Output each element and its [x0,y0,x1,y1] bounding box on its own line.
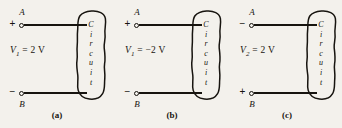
circuit-letter: i [189,30,223,40]
circuit-letter: c [74,49,108,59]
voltage-subscript: 1 [131,50,135,58]
circuit-panel-a: + A − B V1 = 2 V C i r c u i [0,0,114,128]
voltage-equals: = [22,45,28,55]
voltage-label: V2 = 2 V [240,45,275,58]
circuit-panel-c: − A + B V2 = 2 V C i r c u i [230,0,342,128]
top-terminal-label: A [245,7,259,17]
bottom-terminal-label: B [245,99,259,109]
circuit-letter: u [74,58,108,68]
circuit-figure: + A − B V1 = 2 V C i r c u i [0,0,342,128]
panel-caption: (b) [115,110,229,120]
bottom-terminal-polarity-sign: + [238,86,247,98]
circuit-block-label: C i r c u i t [74,20,108,87]
circuit-letter: t [74,78,108,88]
voltage-unit: V [159,45,166,55]
circuit-letter: C [74,20,108,30]
voltage-value: 2 [260,45,265,55]
panel-caption: (c) [230,110,342,120]
voltage-value: 2 [30,45,35,55]
voltage-label: V1 = 2 V [10,45,45,58]
bottom-terminal-polarity-sign: − [123,86,132,98]
circuit-letter: i [74,30,108,40]
bottom-terminal-label: B [15,99,29,109]
voltage-equals: = [252,45,258,55]
circuit-letter: C [189,20,223,30]
voltage-subscript: 2 [246,50,250,58]
circuit-block: C i r c u i t [189,9,223,101]
voltage-unit: V [268,45,275,55]
voltage-equals: = [137,45,143,55]
circuit-letter: t [304,78,338,88]
circuit-letter: u [304,58,338,68]
circuit-letter: r [304,39,338,49]
circuit-letter: c [189,49,223,59]
circuit-panel-b: + A − B V1 = −2 V C i r c u i [115,0,229,128]
circuit-letter: r [189,39,223,49]
voltage-value: −2 [145,45,156,55]
circuit-block: C i r c u i t [304,9,338,101]
circuit-block-label: C i r c u i t [189,20,223,87]
top-terminal-label: A [15,7,29,17]
circuit-letter: r [74,39,108,49]
circuit-letter: i [74,68,108,78]
top-terminal-polarity-sign: + [123,18,132,30]
circuit-letter: C [304,20,338,30]
top-terminal-label: A [130,7,144,17]
circuit-letter: c [304,49,338,59]
voltage-subscript: 1 [16,50,20,58]
top-terminal-polarity-sign: − [238,18,247,30]
panel-caption: (a) [0,110,114,120]
circuit-letter: u [189,58,223,68]
bottom-terminal-label: B [130,99,144,109]
circuit-letter: i [304,30,338,40]
voltage-label: V1 = −2 V [125,45,166,58]
circuit-letter: t [189,78,223,88]
circuit-letter: i [304,68,338,78]
voltage-unit: V [38,45,45,55]
circuit-block-label: C i r c u i t [304,20,338,87]
circuit-block: C i r c u i t [74,9,108,101]
circuit-letter: i [189,68,223,78]
bottom-terminal-polarity-sign: − [8,86,17,98]
top-terminal-polarity-sign: + [8,18,17,30]
